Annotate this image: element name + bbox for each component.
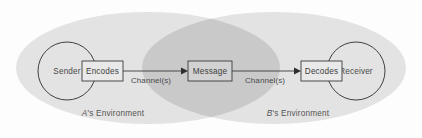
encodes-label: Encodes xyxy=(86,67,119,76)
environment-a-label: A's Environment xyxy=(81,109,145,118)
diagram-canvas: Sender Receiver Encodes Message Decodes … xyxy=(0,0,422,138)
sender-label: Sender xyxy=(53,67,80,76)
environment-b-label-rest: 's Environment xyxy=(272,109,329,118)
communication-model-diagram: Sender Receiver Encodes Message Decodes … xyxy=(0,0,422,138)
channel-right-label: Channel(s) xyxy=(245,76,285,85)
environment-b-label: B's Environment xyxy=(267,109,330,118)
message-label: Message xyxy=(193,67,228,76)
environment-a-label-rest: 's Environment xyxy=(87,109,144,118)
receiver-label: Receiver xyxy=(339,67,373,76)
channel-left-label: Channel(s) xyxy=(131,76,171,85)
decodes-label: Decodes xyxy=(305,67,338,76)
